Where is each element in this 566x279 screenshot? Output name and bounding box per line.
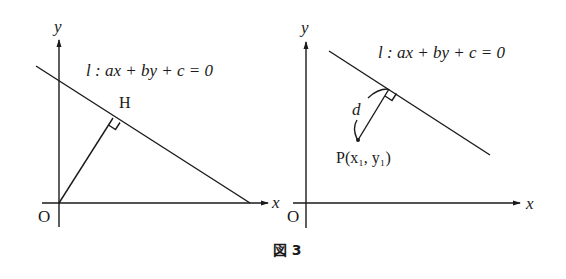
- right-origin-label: O: [287, 208, 299, 225]
- right-perpendicular: [358, 89, 389, 140]
- right-line-equation: l : ax + by + c = 0: [378, 44, 505, 61]
- left-origin-label: O: [38, 208, 50, 225]
- right-y-label: y: [301, 19, 309, 36]
- left-segment-oh: [59, 118, 113, 203]
- point-p-label: P(x₁, y₁): [336, 150, 391, 166]
- right-right-angle-marker: [385, 94, 397, 101]
- point-p-dot: [356, 138, 360, 142]
- figure-canvas: [0, 0, 566, 279]
- left-line-equation: l : ax + by + c = 0: [86, 62, 213, 79]
- left-foot-label: H: [119, 95, 131, 111]
- right-x-label: x: [526, 195, 534, 212]
- figure-caption: 図 3: [273, 243, 302, 257]
- left-line-l: [36, 66, 250, 203]
- left-y-label: y: [54, 18, 62, 35]
- left-x-label: x: [272, 194, 280, 211]
- distance-brace-d-lower: [355, 120, 358, 139]
- right-panel: [293, 42, 520, 228]
- distance-label-d: d: [352, 101, 361, 118]
